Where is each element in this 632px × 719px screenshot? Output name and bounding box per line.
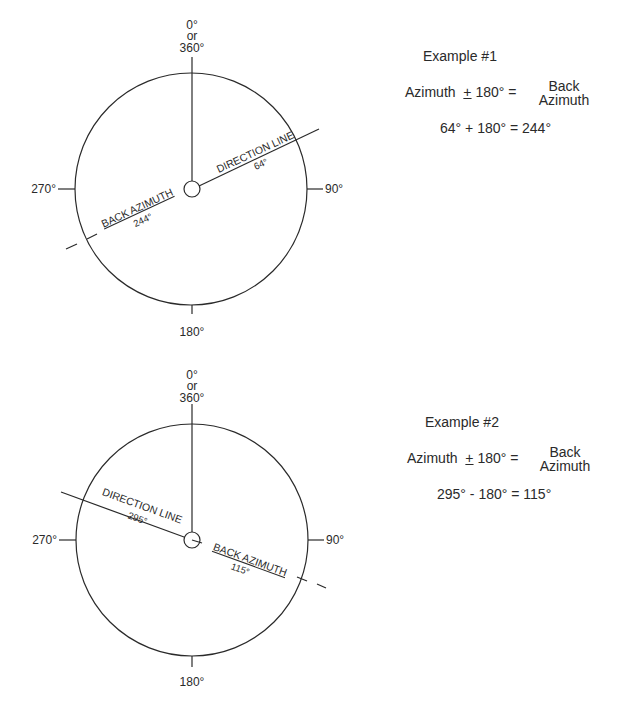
example-2-calculation: 295° - 180° = 115° — [437, 486, 551, 502]
back-azimuth-label-group: BACK AZIMUTH 244° — [99, 186, 180, 241]
compass-diagram-2: 0° or 360° 270° 90° 180° DIRECTION LINE … — [32, 368, 344, 689]
example-2-formula: Azimuth + 180° = — [407, 450, 518, 466]
back-azimuth-label-group: BACK AZIMUTH 115° — [208, 540, 289, 589]
west-label: 270° — [32, 533, 57, 547]
back-word: Back — [534, 445, 596, 459]
azimuth-word: Azimuth — [533, 93, 595, 107]
south-label: 180° — [180, 325, 205, 339]
north-label-360: 360° — [180, 391, 205, 405]
plus-minus-sign: + — [465, 450, 473, 466]
west-label: 270° — [31, 182, 56, 196]
example-1-back-azimuth: Back Azimuth — [533, 79, 595, 107]
formula-azimuth: Azimuth — [407, 450, 458, 466]
direction-line — [199, 129, 319, 186]
azimuth-diagrams: 0° or 360° 270° 90° 180° DIRECTION LINE … — [0, 0, 632, 719]
back-azimuth-dash — [317, 584, 326, 588]
azimuth-word: Azimuth — [534, 459, 596, 473]
compass-circle — [75, 73, 307, 305]
back-azimuth-dash — [66, 244, 77, 249]
plus-minus-sign: + — [463, 84, 471, 100]
north-label-360: 360° — [180, 41, 205, 55]
formula-180: 180° = — [477, 450, 518, 466]
east-label: 90° — [325, 182, 343, 196]
south-label: 180° — [180, 675, 205, 689]
direction-line-label-group: DIRECTION LINE 295° — [96, 485, 183, 537]
back-word: Back — [533, 79, 595, 93]
center-point — [184, 181, 200, 197]
example-1-title: Example #1 — [423, 48, 497, 64]
example-2-back-azimuth: Back Azimuth — [534, 445, 596, 473]
back-azimuth-label: BACK AZIMUTH — [212, 540, 289, 578]
example-1-formula: Azimuth + 180° = — [405, 84, 516, 100]
formula-180: 180° = — [475, 84, 516, 100]
example-1-calculation: 64° + 180° = 244° — [440, 120, 551, 136]
back-azimuth-segment — [87, 234, 97, 239]
east-label: 90° — [326, 533, 344, 547]
formula-azimuth: Azimuth — [405, 84, 456, 100]
compass-diagram-1: 0° or 360° 270° 90° 180° DIRECTION LINE … — [31, 18, 343, 339]
example-2-title: Example #2 — [425, 414, 499, 430]
